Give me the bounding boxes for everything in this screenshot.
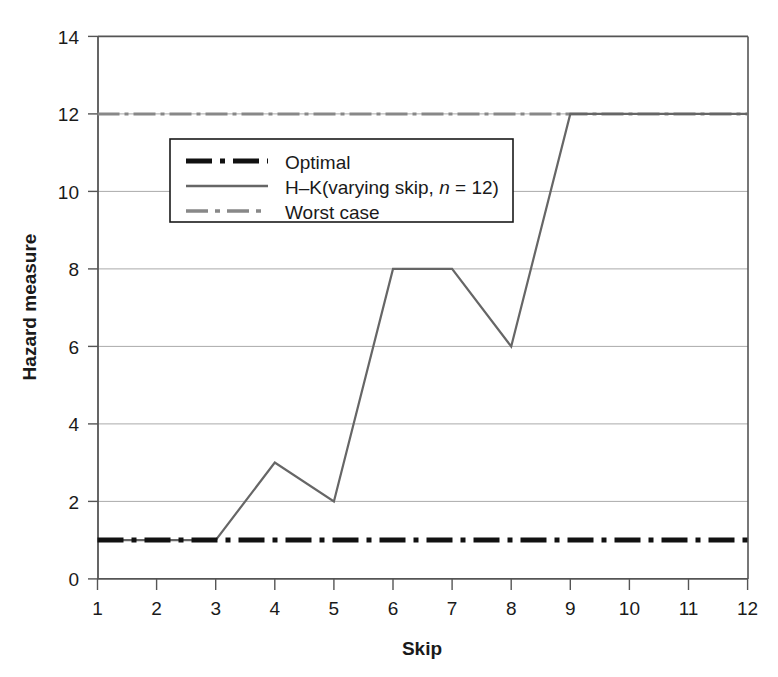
legend-label-optimal: Optimal — [285, 152, 350, 173]
x-axis-title: Skip — [402, 638, 442, 659]
x-tick-label: 7 — [447, 598, 458, 619]
x-tick-label: 2 — [151, 598, 162, 619]
x-tick-label: 10 — [619, 598, 640, 619]
x-tick-label: 8 — [506, 598, 517, 619]
y-tick-label: 4 — [68, 414, 79, 435]
hazard-measure-line-chart: 0 2 4 6 8 10 12 14 1 2 3 4 5 6 7 8 9 10 … — [0, 0, 778, 677]
legend-label-hk-post: = 12) — [450, 177, 499, 198]
y-axis-ticks — [88, 36, 98, 579]
y-tick-labels: 0 2 4 6 8 10 12 14 — [58, 27, 80, 591]
y-tick-label: 8 — [68, 259, 79, 280]
x-tick-label: 3 — [210, 598, 221, 619]
x-tick-label: 1 — [92, 598, 103, 619]
x-tick-label: 4 — [270, 598, 281, 619]
y-tick-label: 12 — [58, 104, 79, 125]
legend: Optimal H–K(varying skip, n = 12) Worst … — [170, 139, 513, 223]
y-tick-label: 14 — [58, 27, 80, 48]
x-tick-label: 6 — [388, 598, 399, 619]
y-tick-label: 2 — [68, 492, 79, 513]
plot-frame — [98, 36, 748, 579]
legend-label-hk-italic-n: n — [439, 177, 450, 198]
legend-label-worst-case: Worst case — [285, 202, 380, 223]
y-tick-label: 0 — [68, 569, 79, 590]
figure-container: 0 2 4 6 8 10 12 14 1 2 3 4 5 6 7 8 9 10 … — [0, 0, 778, 677]
x-tick-label: 11 — [679, 598, 699, 619]
x-tick-labels: 1 2 3 4 5 6 7 8 9 10 11 12 — [92, 598, 758, 619]
legend-label-hk: H–K(varying skip, n = 12) — [285, 177, 499, 198]
x-tick-label: 12 — [737, 598, 758, 619]
y-axis-title: Hazard measure — [19, 234, 40, 381]
x-tick-label: 5 — [329, 598, 340, 619]
x-axis-ticks — [98, 579, 748, 590]
y-tick-label: 6 — [68, 337, 79, 358]
x-tick-label: 9 — [565, 598, 576, 619]
legend-label-hk-pre: H–K(varying skip, — [285, 177, 439, 198]
y-tick-label: 10 — [58, 182, 79, 203]
